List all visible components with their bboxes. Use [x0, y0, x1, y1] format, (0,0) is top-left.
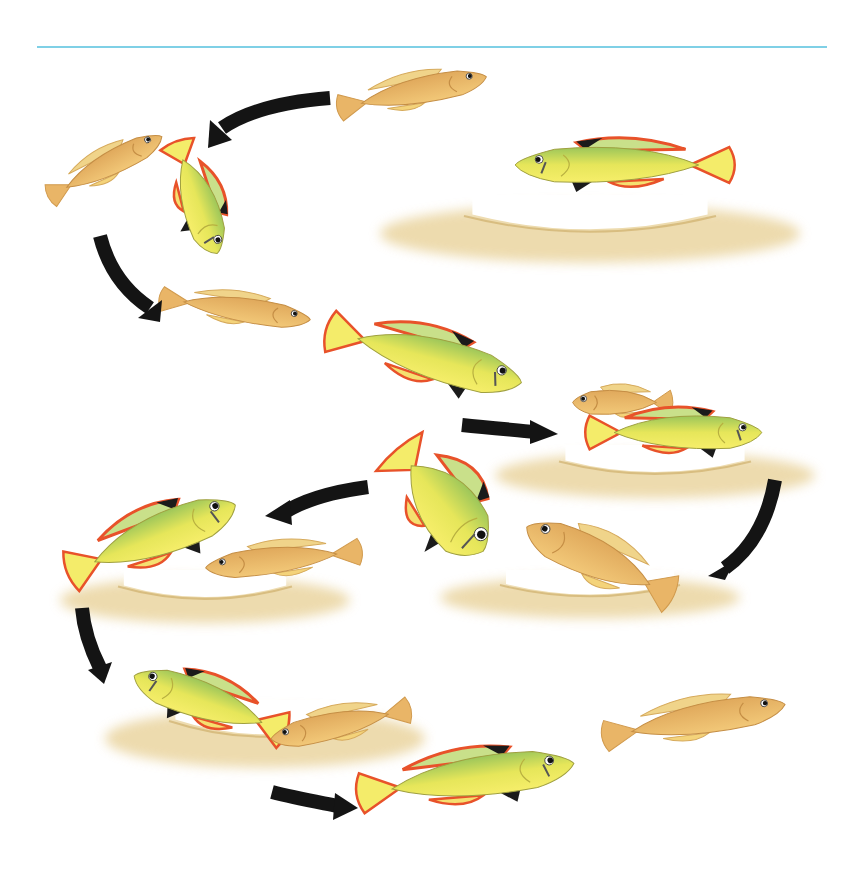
- sand-mound: [60, 570, 350, 623]
- sequence-arrow-icon: [265, 487, 368, 525]
- female-fish: [598, 681, 789, 756]
- sand-mound: [380, 195, 800, 263]
- female-fish: [157, 280, 313, 335]
- male-fish: [362, 419, 518, 580]
- male-fish: [318, 299, 530, 413]
- fish-group: [39, 57, 788, 824]
- sequence-arrow-icon: [82, 608, 112, 684]
- male-fish: [515, 138, 735, 192]
- sequence-arrow-icon: [462, 420, 558, 444]
- female-fish: [39, 120, 169, 210]
- sequence-arrow-icon: [208, 98, 330, 148]
- spawning-sequence-illustration: [0, 0, 862, 871]
- male-fish: [151, 132, 243, 263]
- sequence-arrow-icon: [100, 236, 162, 322]
- female-fish: [333, 57, 490, 125]
- sequence-arrow-icon: [272, 792, 358, 820]
